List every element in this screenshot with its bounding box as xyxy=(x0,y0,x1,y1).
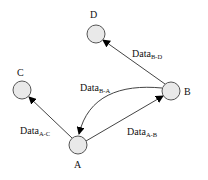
node-b-circle xyxy=(162,82,180,100)
edge-label-b-a: DataB-A xyxy=(80,82,110,94)
node-d-label: D xyxy=(90,9,97,20)
edge-label-a-c: DataA-C xyxy=(20,125,50,137)
node-b-label: B xyxy=(184,86,191,97)
node-c: C xyxy=(13,67,31,99)
node-c-circle xyxy=(13,81,31,99)
edge-b-to-a-curved xyxy=(79,87,162,134)
edge-b-to-d xyxy=(103,40,165,84)
network-diagram: A B C D DataA-C DataA-B DataB-D DataB-A xyxy=(0,0,208,180)
node-b: B xyxy=(162,82,191,100)
node-a-circle xyxy=(69,136,87,154)
node-d-circle xyxy=(87,25,105,43)
edge-label-b-d: DataB-D xyxy=(132,48,162,60)
node-a-label: A xyxy=(74,159,82,170)
node-c-label: C xyxy=(17,67,24,78)
node-a: A xyxy=(69,136,87,170)
edge-label-a-b: DataA-B xyxy=(127,126,158,138)
node-d: D xyxy=(87,9,105,43)
